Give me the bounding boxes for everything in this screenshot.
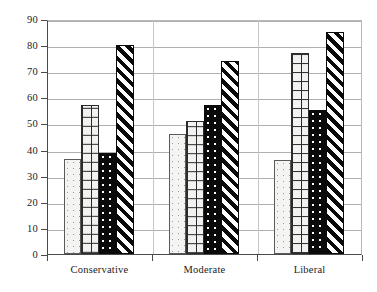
y-axis-label-40: 40 (4, 146, 38, 157)
gridline-60 (48, 99, 361, 100)
y-axis-label-10: 10 (4, 224, 38, 235)
bar-liberal-series-4 (326, 32, 344, 254)
group-separator (153, 21, 154, 254)
x-tick-origin (47, 255, 48, 261)
y-axis-label-50: 50 (4, 119, 38, 130)
bar-conservative-series-3 (99, 153, 117, 254)
y-axis-label-90: 90 (4, 15, 38, 26)
gridline-80 (48, 47, 361, 48)
bar-liberal-series-1 (274, 160, 292, 254)
bar-chart: 0102030405060708090 ConservativeModerate… (0, 0, 377, 292)
plot-area (47, 20, 362, 255)
bar-moderate-series-2 (186, 121, 204, 254)
gridline-90 (48, 21, 361, 22)
bar-moderate-series-4 (221, 61, 239, 254)
x-axis-label-liberal: Liberal (257, 264, 362, 276)
x-tick (152, 255, 153, 261)
y-axis-label-80: 80 (4, 41, 38, 52)
y-axis-label-70: 70 (4, 67, 38, 78)
group-separator (258, 21, 259, 254)
bar-conservative-series-1 (64, 159, 82, 254)
gridline-70 (48, 73, 361, 74)
y-axis-label-30: 30 (4, 172, 38, 183)
bar-liberal-series-3 (309, 110, 327, 254)
y-axis-label-0: 0 (4, 250, 38, 261)
x-axis-label-moderate: Moderate (152, 264, 257, 276)
bar-moderate-series-3 (204, 105, 222, 254)
x-tick (362, 255, 363, 261)
x-tick (257, 255, 258, 261)
y-axis-label-20: 20 (4, 198, 38, 209)
x-axis-label-conservative: Conservative (47, 264, 152, 276)
bar-liberal-series-2 (291, 53, 309, 254)
bar-moderate-series-1 (169, 134, 187, 254)
y-axis-label-60: 60 (4, 93, 38, 104)
bar-conservative-series-2 (81, 105, 99, 254)
bar-conservative-series-4 (116, 45, 134, 254)
